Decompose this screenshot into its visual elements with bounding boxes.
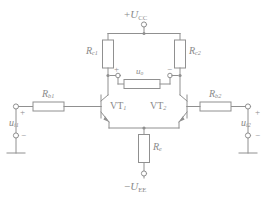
- vt1-subscript: 1: [123, 104, 126, 111]
- circuit-schematic-svg: [0, 0, 276, 201]
- input-right-plus-sign: +: [255, 108, 260, 117]
- rc1-subscript: c1: [92, 49, 98, 56]
- supply-positive-label: +UCC: [124, 9, 147, 21]
- vt2-symbol: VT: [150, 100, 163, 111]
- input-left-terminal: [13, 104, 18, 109]
- rc2-collector-slope: [180, 95, 187, 101]
- input-left-source-terminal: [13, 133, 18, 138]
- supply-negative-terminal: [141, 171, 146, 176]
- supply-positive-symbol: U: [130, 8, 138, 20]
- supply-positive-subscript: CC: [138, 14, 147, 21]
- rc2-label: Rc2: [189, 46, 201, 57]
- vt1-emitter-arrow: [103, 116, 109, 122]
- vt1-symbol: VT: [110, 100, 123, 111]
- vt2-label: VT2: [150, 101, 166, 112]
- rc2-subscript: c2: [195, 49, 201, 56]
- rb1-body: [33, 102, 64, 111]
- output-minus-sign: −: [167, 65, 172, 74]
- input-left-minus-sign: −: [21, 131, 26, 140]
- rc2-body: [175, 40, 186, 68]
- re-body: [139, 135, 150, 163]
- output-voltage-subscript: o: [141, 70, 144, 76]
- output-load-resistor-body: [124, 80, 160, 89]
- output-voltage-label: uo: [136, 67, 143, 77]
- vt2-emitter-arrow: [179, 116, 185, 122]
- supply-negative-symbol: U: [130, 180, 138, 192]
- rb1-subscript: b1: [48, 92, 54, 99]
- input-right-label: ui2: [241, 118, 251, 129]
- input-left-plus-sign: +: [20, 108, 25, 117]
- re-label: Re: [153, 142, 162, 153]
- rc1-body: [103, 40, 114, 68]
- top-rail-node: [143, 32, 146, 35]
- rb1-label: Rb1: [42, 89, 54, 100]
- supply-negative-label: −UEE: [124, 181, 147, 193]
- re-subscript: e: [159, 145, 162, 152]
- input-right-subscript: i2: [246, 121, 251, 128]
- supply-negative-subscript: EE: [138, 186, 146, 193]
- rb2-subscript: b2: [215, 92, 221, 99]
- rc1-collector-slope: [101, 95, 108, 101]
- vt2-subscript: 2: [163, 104, 166, 111]
- circuit-diagram: +UCC −UEE Rc1 Rc2 Rb1 Rb2 Re VT1 VT2 uo …: [0, 0, 276, 201]
- rb2-label: Rb2: [209, 89, 221, 100]
- output-plus-sign: +: [114, 65, 119, 74]
- rc1-label: Rc1: [86, 46, 98, 57]
- input-right-minus-sign: −: [255, 131, 260, 140]
- supply-positive-terminal: [141, 22, 146, 27]
- rb2-body: [200, 102, 231, 111]
- input-left-subscript: i1: [14, 121, 19, 128]
- input-left-label: ui1: [9, 118, 19, 129]
- input-right-source-terminal: [245, 133, 250, 138]
- vt1-label: VT1: [110, 101, 126, 112]
- input-right-terminal: [245, 104, 250, 109]
